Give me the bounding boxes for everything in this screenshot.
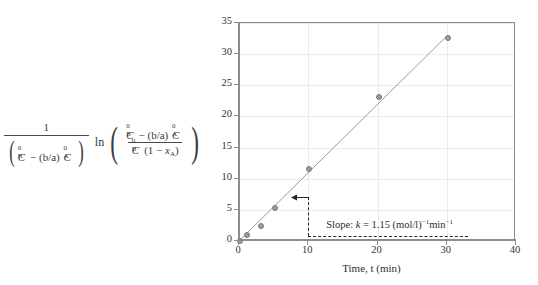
- y-tick-label: 15: [205, 140, 232, 151]
- y-tick-label: 20: [205, 108, 232, 119]
- log-arg-denominator: CB0(1 − xA): [128, 142, 182, 156]
- argden-close: ): [175, 144, 179, 156]
- slope-exponent-2: −1: [446, 218, 453, 226]
- rate-law-equation: 1 (CB0− (b/a) CA0) ln ( CB0− (b/a) CA0 C…: [3, 121, 203, 163]
- x-tick-label: 10: [292, 244, 322, 255]
- data-point-marker: [244, 232, 250, 238]
- x-tick-mark: [377, 241, 378, 245]
- outer-fraction-numerator: 1: [41, 121, 53, 134]
- y-tick-label: 30: [205, 46, 232, 57]
- log-argument-fraction: CB0− (b/a) CA0 CB0(1 − xA): [122, 129, 187, 156]
- y-tick-mark: [234, 209, 238, 210]
- big-paren-open: (: [110, 124, 118, 162]
- denom-CA-term: CA0: [63, 151, 75, 163]
- data-point-marker: [376, 94, 382, 100]
- x-tick-label: 20: [362, 244, 392, 255]
- big-paren-close: ): [191, 124, 199, 162]
- slope-value: = 1.15 (mol/l): [360, 219, 421, 230]
- denom-minus-ba: − (b/a): [30, 151, 60, 163]
- x-tick-mark: [307, 241, 308, 245]
- ln-operator: ln: [95, 136, 104, 149]
- x-tick-mark: [238, 241, 239, 245]
- y-tick-mark: [234, 53, 238, 54]
- slope-guide-horizontal: [308, 236, 467, 237]
- y-tick-mark: [234, 115, 238, 116]
- x-axis-title: Time, t (min): [205, 262, 538, 274]
- data-point-marker: [272, 205, 278, 211]
- argden-CB-term: CB0: [132, 144, 144, 156]
- slope-annotation-label: Slope: k = 1.15 (mol/l)−1min−1: [326, 219, 453, 230]
- slope-unit: min: [429, 219, 445, 230]
- plot-area: Slope: k = 1.15 (mol/l)−1min−1: [238, 22, 515, 240]
- y-tick-label: 10: [205, 171, 232, 182]
- slope-guide-vertical: [308, 197, 309, 236]
- denom-CB-term: CB0: [18, 151, 30, 163]
- left-paren-close: ): [78, 137, 84, 164]
- argnum-CA-term: CA0: [172, 129, 184, 141]
- equation-panel: 1 (CB0− (b/a) CA0) ln ( CB0− (b/a) CA0 C…: [0, 0, 205, 285]
- x-tick-label: 40: [500, 244, 530, 255]
- y-tick-label: 35: [205, 15, 232, 26]
- outer-fraction: 1 (CB0− (b/a) CA0): [4, 121, 89, 163]
- linear-fit-line: [239, 23, 516, 241]
- y-tick-mark: [234, 22, 238, 23]
- y-tick-mark: [234, 178, 238, 179]
- y-tick-label: 0: [205, 233, 232, 244]
- slope-arrow-icon: [291, 193, 309, 202]
- conversion-vs-time-chart: Slope: k = 1.15 (mol/l)−1min−1 051015202…: [205, 0, 538, 285]
- y-axis: [238, 22, 240, 241]
- slope-prefix: Slope:: [326, 219, 355, 230]
- x-tick-mark: [446, 241, 447, 245]
- x-tick-label: 0: [223, 244, 253, 255]
- y-tick-label: 25: [205, 77, 232, 88]
- y-tick-mark: [234, 84, 238, 85]
- argnum-minus-ba: − (b/a): [139, 129, 169, 141]
- y-tick-label: 5: [205, 202, 232, 213]
- y-tick-mark: [234, 147, 238, 148]
- x-tick-label: 30: [431, 244, 461, 255]
- outer-fraction-denominator: (CB0− (b/a) CA0): [4, 135, 89, 164]
- left-paren-open: (: [9, 137, 15, 164]
- data-point-marker: [258, 223, 264, 229]
- argden-open: (1 −: [144, 144, 165, 156]
- data-point-marker: [306, 166, 312, 172]
- x-tick-mark: [515, 241, 516, 245]
